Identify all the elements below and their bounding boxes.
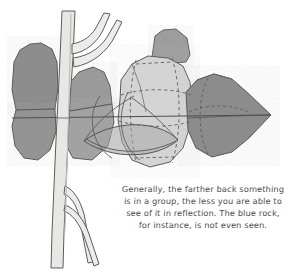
rock-back-left-lower: [12, 109, 56, 160]
caption-line-1: Generally, the farther back something: [118, 183, 288, 195]
caption-line-4: for instance, is not even seen.: [118, 219, 288, 231]
caption-text-block: Generally, the farther back something is…: [118, 183, 288, 231]
caption-line-3: see of it in reflection. The blue rock,: [118, 207, 288, 219]
illustration-page: Generally, the farther back something is…: [0, 0, 290, 277]
rock-reflection-illustration: [0, 0, 290, 277]
caption-line-2: is in a group, the less you are able to: [118, 195, 288, 207]
rock-back-left-upper: [12, 43, 58, 110]
